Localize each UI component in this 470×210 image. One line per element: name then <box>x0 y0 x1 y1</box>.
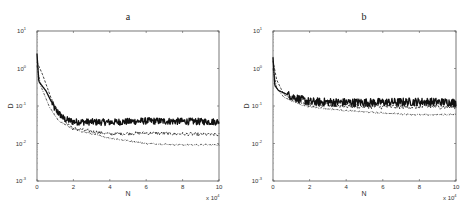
y-tick-label: 10-2 <box>252 139 263 147</box>
y-tick-label: 10-1 <box>252 101 263 109</box>
series-line-dash-dot <box>273 69 456 116</box>
y-tick-label: 10-3 <box>16 176 27 184</box>
y-tick-label: 101 <box>17 26 27 34</box>
x-tick-label: 4 <box>345 184 349 190</box>
panel-a-axes-box <box>37 31 219 181</box>
y-tick-label: 10-1 <box>16 101 27 109</box>
x-tick-label: 4 <box>108 184 112 190</box>
panel-a-title: a <box>126 11 131 22</box>
panel-a-lines <box>37 54 219 146</box>
panel-b-xlabel: N <box>361 190 366 197</box>
series-line-solid <box>37 54 219 126</box>
y-tick-label: 10-2 <box>16 139 27 147</box>
x-tick-label: 6 <box>145 184 149 190</box>
panel-b: b 024681010110010-110-210-3 N D x 104 <box>243 11 460 201</box>
panel-b-title: b <box>362 11 367 22</box>
x-tick-label: 6 <box>381 184 385 190</box>
panel-b-ticks: 024681010110010-110-210-3 <box>252 26 460 190</box>
panel-b-ylabel: D <box>243 103 250 108</box>
panel-a-x-multiplier: x 104 <box>206 193 220 201</box>
series-line-dashed <box>37 62 219 136</box>
x-tick-label: 10 <box>453 184 460 190</box>
panel-b-lines <box>273 57 456 115</box>
x-tick-label: 0 <box>35 184 39 190</box>
x-tick-label: 2 <box>72 184 76 190</box>
panel-a: a 024681010110010-110-210-3 N D x 104 <box>7 11 223 201</box>
x-tick-label: 0 <box>271 184 275 190</box>
y-tick-label: 10-3 <box>252 176 263 184</box>
y-tick-label: 100 <box>17 64 27 72</box>
x-tick-label: 8 <box>181 184 185 190</box>
x-tick-label: 10 <box>216 184 223 190</box>
y-tick-label: 100 <box>253 64 263 72</box>
panel-a-xlabel: N <box>125 190 130 197</box>
panel-b-x-multiplier: x 104 <box>443 193 457 201</box>
series-line-dash-dot <box>37 66 219 146</box>
series-line-solid <box>273 57 456 106</box>
x-tick-label: 8 <box>418 184 422 190</box>
y-tick-label: 101 <box>253 26 263 34</box>
x-tick-label: 2 <box>308 184 312 190</box>
panel-a-ylabel: D <box>7 103 14 108</box>
panel-a-ticks: 024681010110010-110-210-3 <box>16 26 223 190</box>
